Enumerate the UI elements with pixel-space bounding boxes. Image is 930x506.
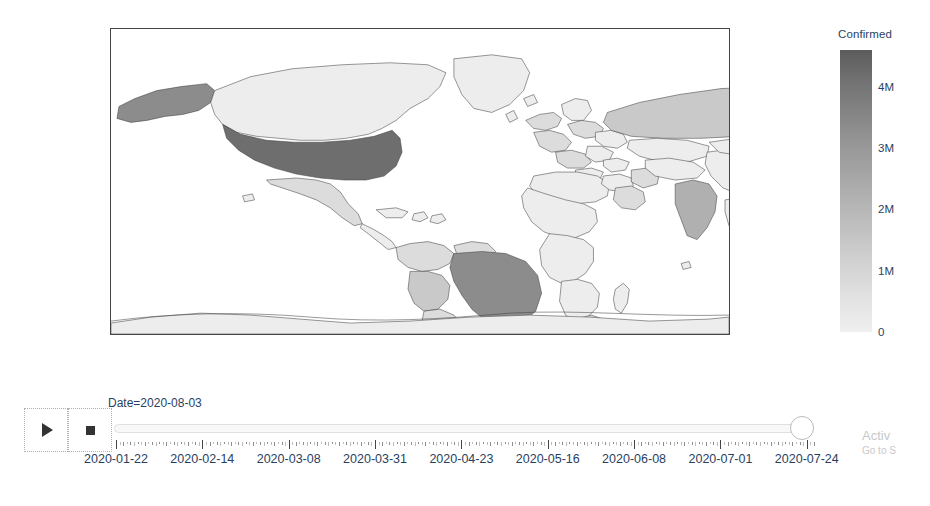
slider-tick-minor [436,442,437,446]
slider-tick-minor [235,442,236,444]
slider-tick-minor [400,442,401,445]
slider-tick-minor [267,442,268,444]
animation-controls [24,408,112,452]
slider-tick-minor [785,442,786,444]
activate-windows-watermark: Activ Go to S [862,428,930,458]
slider-tick-minor [641,442,642,446]
slider-tick-minor [710,442,711,444]
pause-button[interactable] [68,408,112,452]
slider-tick-minor [605,442,606,445]
slider-tick-minor [166,442,167,446]
slider-tick-minor [364,442,365,444]
slider-tick-minor [422,442,423,445]
slider-tick-minor [282,442,283,445]
slider-tick-minor [505,442,506,444]
slider-tick-minor [217,442,218,445]
slider-tick-minor [440,442,441,444]
slider-tick-major [461,440,462,449]
slider-tick-minor [580,442,581,444]
slider-tick-minor [487,442,488,445]
slider-tick-minor [407,442,408,444]
slider-current-value: Date=2020-08-03 [108,396,202,410]
slider-tick-minor [789,442,790,445]
slider-tick-minor [688,442,689,444]
slider-tick-minor [656,442,657,444]
slider-tick-minor [184,442,185,445]
slider-tick-minor [260,442,261,445]
slider-tick-minor [371,442,372,446]
slider-tick-minor [519,442,520,445]
slider-tick-minor [670,442,671,445]
slider-tick-minor [379,442,380,445]
slider-tick-minor [512,442,513,446]
slider-tick-minor [429,442,430,444]
slider-tick-minor [206,442,207,445]
slider-tick-minor [246,442,247,444]
slider-tick-minor [447,442,448,446]
stop-icon [86,426,95,435]
slider-tick-minor [476,442,477,445]
slider-tick-minor [213,442,214,444]
date-slider[interactable]: Date=2020-08-03 2020-01-222020-02-142020… [108,396,824,476]
slider-tick-minor [127,442,128,444]
slider-tick-minor [684,442,685,446]
slider-tick-minor [321,442,322,444]
slider-tick-minor [228,442,229,445]
slider-tick-minor [199,442,200,446]
world-map-panel[interactable]: .ct { fill:#e9e9e9; stroke:#444; stroke-… [110,28,730,335]
slider-tick-minor [562,442,563,445]
slider-tick-minor [393,442,394,446]
slider-tick-major [634,440,635,449]
slider-tick-minor [177,442,178,446]
colorbar-title: Confirmed [838,28,892,40]
slider-tick-major [375,440,376,449]
slider-tick-label: 2020-07-01 [688,452,752,466]
play-button[interactable] [24,408,68,452]
slider-tick-minor [544,442,545,446]
slider-tick-minor [717,442,718,446]
slider-tick-minor [353,442,354,444]
slider-tick-minor [749,442,750,446]
slider-tick-minor [742,442,743,444]
slider-tick-minor [648,442,649,445]
watermark-title: Activ [862,428,930,444]
slider-tick-minor [134,442,135,446]
slider-tick-minor [256,442,257,444]
slider-tick-minor [192,442,193,444]
colorbar-tick-label: 1M [878,265,894,277]
slider-tick-label: 2020-05-16 [516,452,580,466]
slider-handle[interactable] [790,416,814,440]
slider-tick-minor [551,442,552,445]
slider-tick-minor [587,442,588,446]
slider-tick-minor [361,442,362,446]
slider-tick-minor [652,442,653,446]
slider-tick-minor [577,442,578,446]
slider-tick-minor [620,442,621,446]
slider-tick-minor [598,442,599,446]
slider-tick-minor [753,442,754,444]
slider-tick-label: 2020-06-08 [602,452,666,466]
slider-tick-minor [152,442,153,445]
slider-tick-minor [659,442,660,445]
slider-tick-minor [555,442,556,446]
slider-tick-label: 2020-07-24 [775,452,839,466]
slider-tick-minor [814,442,815,446]
slider-tick-minor [156,442,157,446]
slider-tick-minor [411,442,412,445]
slider-tick-minor [368,442,369,445]
slider-tick-minor [458,442,459,446]
slider-track[interactable] [114,424,814,433]
colorbar-tick-label: 3M [878,142,894,154]
slider-tick-minor [210,442,211,446]
slider-tick-minor [573,442,574,445]
slider-tick-minor [602,442,603,444]
slider-tick-minor [141,442,142,445]
world-map-svg[interactable]: .ct { fill:#e9e9e9; stroke:#444; stroke-… [111,29,729,334]
slider-tick-minor [616,442,617,445]
slider-tick-minor [418,442,419,444]
slider-tick-minor [746,442,747,445]
slider-tick-minor [638,442,639,445]
slider-tick-major [548,440,549,449]
slider-tick-minor [145,442,146,446]
slider-tick-minor [559,442,560,444]
